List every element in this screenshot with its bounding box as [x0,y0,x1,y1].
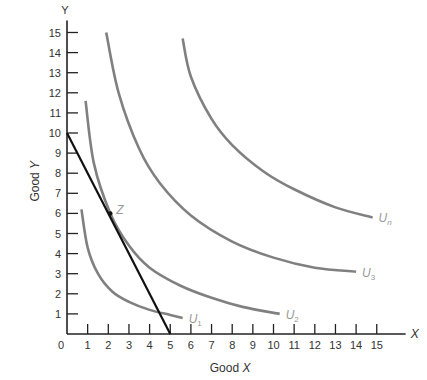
curve-label-u2: U2 [286,308,300,324]
curve-label-u1: U1 [189,312,203,328]
y-tick-label: 6 [55,207,61,219]
x-axis-letter: X [410,327,420,341]
x-tick-label: 5 [167,339,173,351]
x-tick-label: 0 [58,339,64,351]
x-tick-label: 4 [147,339,153,351]
y-tick-label: 8 [55,167,61,179]
indifference-curve-chart: XY01234567891011121314151234567891011121… [0,0,427,380]
y-tick-label: 11 [50,107,61,119]
tangency-point [108,211,112,215]
y-axis-title: Good Y [28,160,42,202]
y-tick-label: 15 [49,27,61,39]
x-tick-label: 14 [350,339,362,351]
x-tick-label: 6 [188,339,194,351]
y-tick-label: 4 [55,248,61,260]
y-tick-label: 12 [49,87,61,99]
y-tick-label: 1 [55,308,61,320]
y-tick-label: 3 [55,268,61,280]
x-tick-label: 2 [105,339,111,351]
budget-line [67,133,170,334]
x-tick-label: 3 [126,339,132,351]
y-tick-label: 7 [55,187,61,199]
indifference-curve-un [183,39,373,218]
y-tick-label: 5 [55,228,61,240]
y-tick-label: 10 [49,127,61,139]
budget-line-segment [67,133,170,334]
y-tick-label: 13 [49,67,61,79]
x-tick-label: 9 [250,339,256,351]
indifference-curve-u1 [81,209,182,318]
x-axis-title: Good X [210,361,252,375]
y-tick-label: 2 [55,288,61,300]
x-tick-label: 13 [329,339,341,351]
y-tick-label: 9 [55,147,61,159]
indifference-curve-u3 [106,33,356,272]
indifference-curves [81,33,372,318]
tangency-point-label: Z [115,203,124,217]
x-tick-label: 10 [267,339,279,351]
curve-label-u3: U3 [362,266,376,282]
curve-label-un: Un [379,211,393,227]
x-tick-label: 1 [85,339,91,351]
axes: XY01234567891011121314151234567891011121… [28,4,420,375]
x-tick-label: 15 [371,339,383,351]
y-axis-letter: Y [61,4,69,16]
x-tick-label: 11 [288,339,299,351]
x-tick-label: 7 [208,339,214,351]
x-tick-label: 12 [309,339,321,351]
y-tick-label: 14 [49,47,61,59]
x-tick-label: 8 [229,339,235,351]
